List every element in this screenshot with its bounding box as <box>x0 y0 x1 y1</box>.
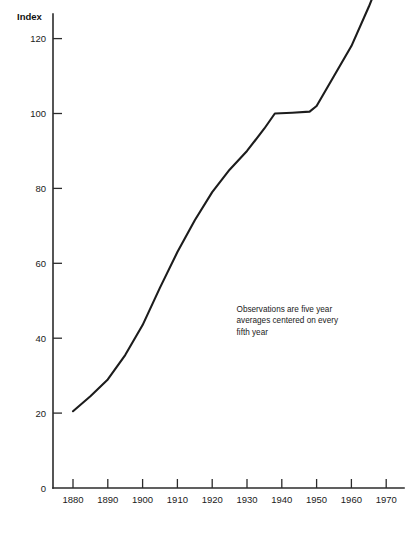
x-axis-tick-labels: 1880189019001910192019301940195019601970 <box>62 494 396 505</box>
observations-note-line-1: Observations are five year <box>237 305 333 314</box>
x-tick-label-1910: 1910 <box>167 494 188 505</box>
y-tick-label-40: 40 <box>35 333 46 344</box>
y-axis-ticks <box>53 39 62 414</box>
x-tick-label-1950: 1950 <box>306 494 327 505</box>
x-tick-label-1930: 1930 <box>236 494 257 505</box>
chart-container: 20406080100120 1880189019001910192019301… <box>0 0 417 545</box>
origin-tick-label: 0 <box>41 483 46 494</box>
y-tick-label-120: 120 <box>30 33 46 44</box>
x-tick-label-1890: 1890 <box>97 494 118 505</box>
x-tick-label-1940: 1940 <box>271 494 292 505</box>
y-tick-label-60: 60 <box>35 258 46 269</box>
observations-note-line-3: fifth year <box>237 328 269 337</box>
x-tick-label-1960: 1960 <box>341 494 362 505</box>
x-axis-ticks <box>73 479 386 488</box>
x-tick-label-1970: 1970 <box>376 494 397 505</box>
x-tick-label-1880: 1880 <box>62 494 83 505</box>
y-tick-label-20: 20 <box>35 408 46 419</box>
observations-note-line-2: averages centered on every <box>237 316 339 325</box>
chart-annotations: Observations are five yearaverages cente… <box>237 305 339 337</box>
y-axis-tick-labels: 20406080100120 <box>30 33 46 419</box>
y-tick-label-100: 100 <box>30 108 46 119</box>
line-chart: 20406080100120 1880189019001910192019301… <box>0 0 417 545</box>
y-tick-label-80: 80 <box>35 183 46 194</box>
data-line-index <box>73 0 386 411</box>
x-tick-label-1920: 1920 <box>202 494 223 505</box>
chart-series <box>73 0 386 411</box>
chart-axes <box>53 14 404 488</box>
y-axis-title: Index <box>17 11 43 22</box>
x-tick-label-1900: 1900 <box>132 494 153 505</box>
